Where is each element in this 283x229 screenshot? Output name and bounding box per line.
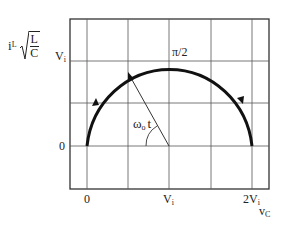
arc-arrow-left-icon — [92, 98, 99, 106]
x-tick-vi: Vi — [163, 193, 174, 207]
trajectory-arc — [87, 69, 252, 146]
state-plane-diagram — [0, 0, 283, 229]
sqrt-expression: L C — [20, 30, 40, 60]
grid-lines — [70, 19, 269, 189]
plot-frame — [70, 19, 269, 189]
y-axis-label: iL L C — [8, 30, 40, 60]
angle-label: ωot — [133, 117, 151, 132]
x-tick-zero: 0 — [84, 193, 90, 205]
fraction-denominator: C — [30, 47, 38, 60]
sqrt-icon — [20, 30, 29, 60]
x-axis-label: vC — [259, 205, 270, 219]
y-tick-zero: 0 — [59, 140, 65, 152]
quarter-period-label: π/2 — [172, 46, 187, 58]
fraction: L C — [29, 31, 40, 60]
radius-vector — [131, 78, 169, 146]
fraction-numerator: L — [30, 33, 39, 47]
y-label-sub: L — [12, 41, 17, 49]
y-tick-vi: Vi — [55, 50, 66, 64]
x-tick-2vi: 2Vi — [243, 193, 260, 207]
